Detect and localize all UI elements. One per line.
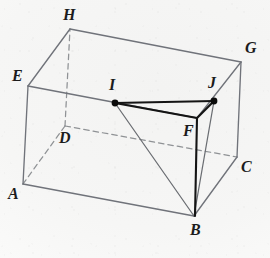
vertex-label-G: G (245, 40, 257, 56)
segment-I-F (115, 103, 197, 118)
edge-D-H (65, 29, 70, 126)
edge-A-E (23, 86, 28, 184)
point-J-marker (211, 98, 218, 105)
point-I-marker (112, 100, 119, 107)
edge-A-B (23, 184, 194, 216)
edge-F-G (197, 62, 241, 118)
vertex-label-D: D (59, 130, 71, 146)
edge-H-G (70, 29, 241, 62)
edge-B-C (194, 157, 237, 216)
vertex-label-F: F (183, 123, 194, 139)
vertex-label-E: E (12, 68, 23, 84)
segment-I-J (115, 101, 214, 103)
edge-D-C (65, 126, 237, 157)
highlight-segments (115, 101, 214, 216)
prism-drawing (0, 0, 270, 258)
vertex-label-A: A (8, 186, 19, 202)
vertex-label-H: H (63, 7, 75, 23)
vertex-label-C: C (241, 159, 252, 175)
vertex-label-I: I (109, 77, 115, 93)
visible-edges (23, 29, 241, 216)
edge-C-G (237, 62, 241, 157)
segment-I-B (115, 103, 194, 216)
construction-lines (115, 101, 214, 216)
vertex-label-B: B (190, 222, 201, 238)
vertex-label-J: J (208, 75, 216, 91)
edge-H-E (28, 29, 70, 86)
geometry-figure: A B C D E F G H I J (0, 0, 270, 258)
